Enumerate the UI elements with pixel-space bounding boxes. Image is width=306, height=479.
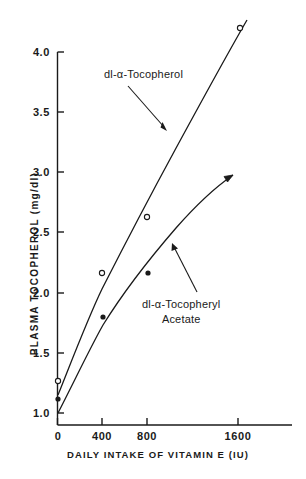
x-tick-label-0: 0 xyxy=(55,430,62,442)
annotation-arrow-acetate xyxy=(172,243,198,292)
x-tick-label-800: 800 xyxy=(137,430,157,442)
annotation-arrow-tocopherol xyxy=(128,86,167,131)
annotation-label-tocopherol: dl-α-Tocopherol xyxy=(104,68,183,80)
y-tick-marks xyxy=(58,52,65,413)
x-axis-title: DAILY INTAKE OF VITAMIN E (IU) xyxy=(28,449,288,460)
x-tick-label-400: 400 xyxy=(92,430,112,442)
chart-figure: 4.0 3.5 3.0 2.5 2.0 1.5 1.0 0 400 800 16… xyxy=(0,0,306,479)
x-tick-label-1600: 1600 xyxy=(225,430,252,442)
annotation-label-acetate: dl-α-Tocopheryl Acetate xyxy=(142,297,220,327)
y-tick-label-1-0: 1.0 xyxy=(10,407,50,419)
y-axis-title: PLASMA TOCOPHEROL (mg/dl) xyxy=(29,134,40,394)
annotation-acetate-line1: dl-α-Tocopheryl xyxy=(142,298,220,310)
x-tick-marks xyxy=(58,418,239,425)
series-line-acetate xyxy=(58,175,233,413)
y-tick-label-3-5: 3.5 xyxy=(10,106,50,118)
y-tick-label-4-0: 4.0 xyxy=(10,46,50,58)
series-markers-acetate xyxy=(55,270,150,401)
annotation-acetate-line2: Acetate xyxy=(142,312,220,327)
